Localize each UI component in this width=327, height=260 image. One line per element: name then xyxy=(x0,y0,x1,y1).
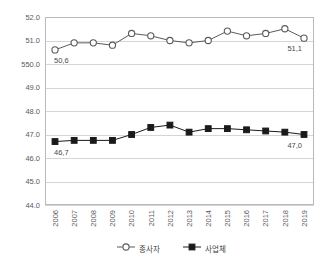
x-axis-tick-label: 2015 xyxy=(223,210,232,227)
legend-item-label: 사업체 xyxy=(205,244,226,254)
y-axis-tick-label: 52.0 xyxy=(25,13,40,22)
y-axis-tick-label: 48.0 xyxy=(25,107,40,116)
series-marker-filled-square xyxy=(205,126,211,132)
series-marker-open-circle xyxy=(186,40,192,46)
series-marker-filled-square xyxy=(189,244,195,250)
data-point-label: 46,7 xyxy=(54,148,69,157)
series-marker-filled-square xyxy=(301,132,307,138)
y-axis-tick-label: 44.0 xyxy=(25,201,40,210)
series-marker-filled-square xyxy=(282,129,288,135)
series-marker-filled-square xyxy=(244,127,250,133)
series-marker-filled-square xyxy=(71,137,77,143)
series-marker-open-circle xyxy=(205,37,211,43)
x-axis-tick-label: 2017 xyxy=(261,210,270,227)
chart-svg: 52.051.0550.049.048.047.046.045.044.0 20… xyxy=(0,0,327,260)
series-marker-open-circle xyxy=(148,33,154,39)
x-axis-tick-label: 2014 xyxy=(204,210,213,227)
legend-item-1[interactable]: 종사자 xyxy=(117,244,160,254)
data-point-label: 51,1 xyxy=(287,44,302,53)
y-axis-tick-label: 51.0 xyxy=(25,36,40,45)
series-marker-filled-square xyxy=(148,125,154,131)
y-axis-tick-label: 49.0 xyxy=(25,83,40,92)
x-axis-tick-label: 2008 xyxy=(89,210,98,227)
y-axis-tick-label: 47.0 xyxy=(25,130,40,139)
series-marker-open-circle xyxy=(224,28,230,34)
series-marker-filled-square xyxy=(186,129,192,135)
series-marker-filled-square xyxy=(52,139,58,145)
y-axis-tick-labels: 52.051.0550.049.048.047.046.045.044.0 xyxy=(21,13,40,210)
series-marker-open-circle xyxy=(71,40,77,46)
series-marker-filled-square xyxy=(224,126,230,132)
data-point-label: 50,6 xyxy=(54,56,69,65)
legend-item-2[interactable]: 사업체 xyxy=(183,244,226,254)
series-marker-filled-square xyxy=(90,137,96,143)
x-axis-tick-label: 2011 xyxy=(147,210,156,226)
x-axis-tick-label: 2019 xyxy=(300,210,309,227)
x-axis-tick-label: 2018 xyxy=(281,210,290,227)
x-axis-tick-label: 2016 xyxy=(242,210,251,227)
x-axis-tick-label: 2007 xyxy=(70,210,79,227)
series-marker-open-circle xyxy=(263,30,269,36)
series-marker-open-circle xyxy=(301,35,307,41)
y-axis-tick-label: 45.0 xyxy=(25,177,40,186)
x-axis-tick-labels: 2006200720082009201020112012201320142015… xyxy=(51,210,309,227)
series-marker-open-circle xyxy=(167,37,173,43)
y-axis-tick-label: 550.0 xyxy=(21,60,40,69)
x-axis-tick-label: 2010 xyxy=(127,210,136,227)
series-marker-open-circle xyxy=(123,244,129,250)
series-marker-filled-square xyxy=(129,132,135,138)
data-point-label: 47,0 xyxy=(287,141,302,150)
series-marker-filled-square xyxy=(110,137,116,143)
x-axis-tick-label: 2006 xyxy=(51,210,60,227)
legend-item-label: 종사자 xyxy=(139,245,160,254)
series-marker-open-circle xyxy=(109,42,115,48)
series-marker-open-circle xyxy=(52,47,58,53)
y-axis-tick-label: 46.0 xyxy=(25,154,40,163)
chart-container: 52.051.0550.049.048.047.046.045.044.0 20… xyxy=(0,0,327,260)
series-marker-open-circle xyxy=(243,33,249,39)
series-marker-open-circle xyxy=(90,40,96,46)
series-marker-filled-square xyxy=(263,128,269,134)
x-axis-tick-label: 2013 xyxy=(185,210,194,227)
x-axis-tick-label: 2012 xyxy=(166,210,175,227)
x-axis-tick-label: 2009 xyxy=(108,210,117,227)
chart-legend: 종사자사업체 xyxy=(117,244,226,254)
series-marker-open-circle xyxy=(129,30,135,36)
line-chart: 52.051.0550.049.048.047.046.045.044.0 20… xyxy=(0,0,327,260)
series-marker-filled-square xyxy=(167,122,173,128)
series-marker-open-circle xyxy=(282,26,288,32)
